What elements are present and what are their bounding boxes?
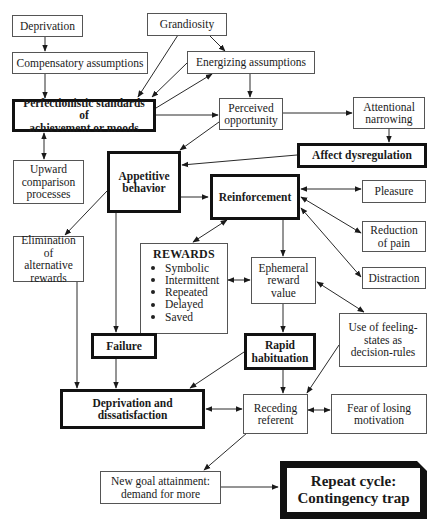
node-label: Perfectionistic standards of achievement… bbox=[18, 97, 150, 135]
node-label: Use of feeling- states as decision-rules bbox=[349, 321, 418, 359]
node-compensatory-assumptions: Compensatory assumptions bbox=[12, 52, 148, 74]
node-label: Reinforcement bbox=[219, 191, 292, 204]
node-use-of-feeling-states: Use of feeling- states as decision-rules bbox=[339, 313, 427, 367]
node-label: Fear of losing motivation bbox=[347, 402, 411, 427]
node-perceived-opportunity: Perceived opportunity bbox=[219, 98, 283, 130]
node-grandiosity: Grandiosity bbox=[147, 13, 227, 36]
node-label: Deprivation bbox=[20, 20, 75, 33]
node-reinforcement: Reinforcement bbox=[210, 174, 300, 220]
bullet-icon bbox=[151, 303, 155, 307]
node-new-goal-attainment: New goal attainment: demand for more bbox=[100, 471, 221, 504]
rewards-title: REWARDS bbox=[153, 248, 215, 261]
node-rapid-habituation: Rapid habituation bbox=[244, 333, 316, 370]
bullet-icon bbox=[151, 290, 155, 294]
node-label: Deprivation and dissatisfaction bbox=[92, 397, 172, 422]
node-receding-referent: Receding referent bbox=[243, 394, 308, 434]
node-attentional-narrowing: Attentional narrowing bbox=[353, 97, 425, 129]
node-deprivation-and-dissatisfaction: Deprivation and dissatisfaction bbox=[60, 389, 205, 429]
node-label: Upward comparison processes bbox=[22, 163, 76, 201]
bullet-icon bbox=[151, 278, 155, 282]
node-label: Failure bbox=[106, 340, 142, 353]
node-label: Attentional narrowing bbox=[363, 101, 415, 126]
node-failure: Failure bbox=[91, 333, 157, 359]
node-label: Appetitive behavior bbox=[118, 170, 169, 195]
node-elimination-of-alternative-rewards: Elimination of alternative rewards bbox=[13, 236, 84, 282]
node-perfectionistic-standards: Perfectionistic standards of achievement… bbox=[12, 99, 156, 132]
node-label: Energizing assumptions bbox=[196, 56, 306, 69]
node-label: Receding referent bbox=[254, 402, 297, 427]
node-label: Reduction of pain bbox=[370, 224, 417, 249]
node-upward-comparison: Upward comparison processes bbox=[13, 160, 84, 204]
node-deprivation: Deprivation bbox=[12, 15, 83, 37]
node-fear-of-losing-motivation: Fear of losing motivation bbox=[331, 394, 427, 434]
bullet-icon bbox=[151, 266, 155, 270]
node-label: Grandiosity bbox=[160, 18, 214, 31]
node-affect-dysregulation: Affect dysregulation bbox=[297, 143, 427, 168]
node-label: Elimination of alternative rewards bbox=[17, 234, 80, 284]
node-rewards: REWARDS Symbolic Intermittent Repeated D… bbox=[140, 243, 228, 334]
rewards-item: Saved bbox=[147, 311, 219, 323]
node-label: New goal attainment: demand for more bbox=[111, 475, 210, 500]
node-label: Pleasure bbox=[375, 185, 414, 198]
node-repeat-cycle: Repeat cycle: Contingency trap bbox=[280, 461, 427, 519]
node-label: Distraction bbox=[368, 272, 419, 285]
node-reduction-of-pain: Reduction of pain bbox=[362, 221, 426, 252]
rewards-item: Delayed bbox=[147, 298, 219, 310]
bullet-icon bbox=[151, 315, 155, 319]
contingency-trap-diagram: Deprivation Grandiosity Compensatory ass… bbox=[0, 0, 438, 527]
rewards-list: Symbolic Intermittent Repeated Delayed S… bbox=[147, 262, 219, 323]
node-label: Ephemeral reward value bbox=[259, 262, 309, 300]
node-label: Compensatory assumptions bbox=[17, 57, 144, 70]
node-appetitive-behavior: Appetitive behavior bbox=[107, 151, 181, 213]
node-ephemeral-reward-value: Ephemeral reward value bbox=[251, 257, 316, 304]
node-label: Perceived opportunity bbox=[224, 102, 278, 127]
node-energizing-assumptions: Energizing assumptions bbox=[187, 51, 315, 74]
rewards-item: Intermittent bbox=[147, 274, 219, 286]
node-label: Affect dysregulation bbox=[312, 149, 412, 162]
node-pleasure: Pleasure bbox=[362, 180, 426, 203]
node-label: Rapid habituation bbox=[252, 339, 309, 364]
rewards-item: Symbolic bbox=[147, 262, 219, 274]
rewards-item: Repeated bbox=[147, 286, 219, 298]
node-label: Repeat cycle: Contingency trap bbox=[297, 473, 409, 507]
node-distraction: Distraction bbox=[362, 267, 426, 289]
